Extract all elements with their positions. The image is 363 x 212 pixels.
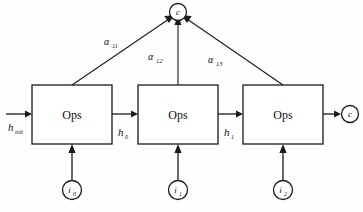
input-node-i0	[63, 181, 82, 200]
attention-label-a11-base: α	[104, 36, 110, 47]
diagram-svg: Ops Ops Ops	[0, 0, 363, 212]
output-node-c-label: c	[348, 109, 352, 119]
context-node-c-label: c	[176, 7, 180, 17]
diagram-canvas: Ops Ops Ops	[0, 0, 363, 212]
edge-ops0-to-context	[72, 19, 169, 85]
input-node-i1-sub: 1	[179, 191, 182, 197]
state-label-h0-base: h	[118, 126, 124, 138]
arrowhead-h0	[131, 111, 138, 118]
attention-label-a11-sub: 11	[112, 42, 118, 49]
state-label-h1-sub: 1	[231, 134, 234, 140]
state-label-hinit-sub: init	[15, 129, 23, 135]
attention-label-a12-sub: 12	[156, 57, 163, 64]
arrowhead-i1	[174, 144, 181, 153]
ops-box-1-label: Ops	[168, 108, 188, 122]
arrowhead-i0	[68, 144, 75, 153]
attention-label-a13-base: α	[208, 54, 214, 65]
ops-box-2-label: Ops	[273, 108, 293, 122]
input-node-i2-sub: 2	[284, 191, 287, 197]
state-label-h1-base: h	[224, 126, 230, 138]
input-node-i1	[169, 181, 188, 200]
ops-box-0-label: Ops	[62, 108, 82, 122]
arrowhead-hinit	[25, 111, 32, 118]
input-node-i2	[274, 181, 293, 200]
attention-label-a12-base: α	[148, 51, 154, 62]
edge-ops2-to-context	[187, 19, 283, 85]
input-node-i0-sub: 0	[73, 191, 76, 197]
state-label-hinit-base: h	[8, 121, 14, 133]
state-label-h0-sub: 0	[125, 134, 128, 140]
arrowhead-i2	[279, 144, 286, 153]
arrowhead-output	[334, 111, 341, 118]
attention-label-a13-sub: 13	[216, 60, 223, 67]
arrowhead-h1	[236, 111, 243, 118]
